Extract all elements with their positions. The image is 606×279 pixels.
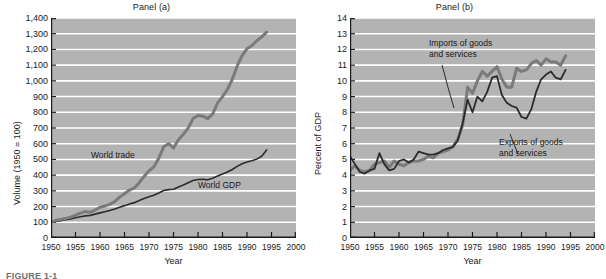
ytick: 2 <box>342 202 347 212</box>
xtick: 1955 <box>66 242 85 252</box>
ytick: 8 <box>342 107 347 117</box>
xtick: 1960 <box>91 242 110 252</box>
xtick: 1985 <box>512 242 531 252</box>
xtick: 1950 <box>341 242 360 252</box>
ytick: 11 <box>338 60 347 70</box>
panel-b-title: Panel (b) <box>303 2 606 12</box>
ytick: 5 <box>342 154 347 164</box>
panel-a-plot <box>51 18 296 238</box>
panel-b-xlabel: Year <box>350 256 595 266</box>
xtick: 1980 <box>488 242 507 252</box>
panel-b: Panel (b) Percent of GDP 0 1 2 3 4 5 6 7… <box>303 0 606 279</box>
ytick: 6 <box>342 139 347 149</box>
xtick: 1950 <box>42 242 61 252</box>
ytick: 1,200 <box>25 44 48 54</box>
exports-label-line1: Exports of goods <box>499 137 563 147</box>
xtick: 2000 <box>586 242 605 252</box>
xtick: 1970 <box>439 242 458 252</box>
xtick: 1960 <box>390 242 409 252</box>
ytick: 3 <box>342 186 347 196</box>
figure-container: Panel (a) Volume (1950 = 100) 0 100 200 … <box>0 0 606 279</box>
imports-label-line2: and services <box>429 49 477 59</box>
ytick: 7 <box>342 123 347 133</box>
ytick: 14 <box>337 13 347 23</box>
xtick: 1980 <box>189 242 208 252</box>
xtick: 1965 <box>414 242 433 252</box>
panel-a-ytick-labels: 0 100 200 300 400 500 600 700 800 900 1,… <box>0 0 48 279</box>
ytick: 1,300 <box>25 29 48 39</box>
ytick: 1,100 <box>25 60 48 70</box>
world-gdp-label: World GDP <box>198 180 241 190</box>
ytick: 9 <box>342 92 347 102</box>
xtick: 1955 <box>365 242 384 252</box>
panel-a: Panel (a) Volume (1950 = 100) 0 100 200 … <box>0 0 303 279</box>
xtick: 1965 <box>115 242 134 252</box>
ytick: 300 <box>33 186 48 196</box>
xtick: 1975 <box>164 242 183 252</box>
ytick: 1,400 <box>25 13 48 23</box>
ytick: 400 <box>33 170 48 180</box>
xtick: 1990 <box>238 242 257 252</box>
panel-b-ytick-labels: 0 1 2 3 4 5 6 7 8 9 10 11 12 13 14 <box>303 0 347 279</box>
figure-caption: FIGURE 1-1 <box>6 271 58 279</box>
xtick: 1990 <box>537 242 556 252</box>
ytick: 100 <box>33 217 48 227</box>
xtick: 1985 <box>213 242 232 252</box>
ytick: 500 <box>33 154 48 164</box>
ytick: 1 <box>342 217 347 227</box>
ytick: 200 <box>33 202 48 212</box>
ytick: 1,000 <box>25 76 48 86</box>
ytick: 12 <box>337 44 347 54</box>
ytick: 10 <box>337 76 347 86</box>
xtick: 1995 <box>262 242 281 252</box>
ytick: 900 <box>33 92 48 102</box>
ytick: 800 <box>33 107 48 117</box>
ytick: 600 <box>33 139 48 149</box>
xtick: 1995 <box>561 242 580 252</box>
xtick: 1970 <box>140 242 159 252</box>
world-trade-label: World trade <box>91 150 135 160</box>
ytick: 13 <box>337 29 347 39</box>
ytick: 700 <box>33 123 48 133</box>
ytick: 4 <box>342 170 347 180</box>
exports-label-line2: and services <box>499 148 547 158</box>
imports-label-line1: Imports of goods <box>429 38 492 48</box>
xtick: 1975 <box>463 242 482 252</box>
panel-a-xlabel: Year <box>51 256 296 266</box>
